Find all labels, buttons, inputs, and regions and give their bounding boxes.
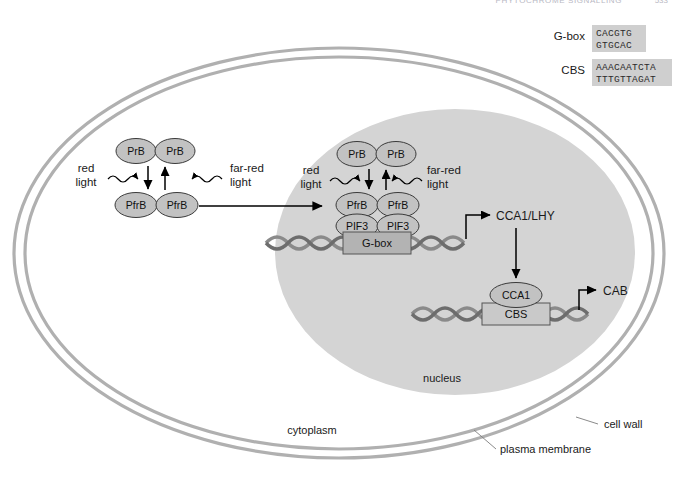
- nucleus-far-red-light-line-1: far-red: [427, 164, 461, 176]
- cytoplasm-pfr-label-2: PfrB: [167, 199, 187, 211]
- legend-g-box-label: G-box: [554, 30, 586, 42]
- cytoplasm-pr-label-1: PrB: [127, 145, 145, 157]
- cytoplasm-far-red-light-group: far-red light: [192, 162, 264, 188]
- pif3-label-1: PIF3: [346, 220, 368, 232]
- cytoplasm-pfr-label-1: PfrB: [126, 199, 146, 211]
- legend-g-box-bottom-strand: GTGCAC: [596, 40, 632, 51]
- cca1lhy-gene-label: CCA1/LHY: [496, 209, 555, 223]
- cytoplasm-pfr-dimer: PfrB PfrB: [115, 193, 198, 218]
- figure-canvas: PHYTOCHROME SIGNALLING 533 PrB Pr: [0, 0, 678, 482]
- cytoplasm-label: cytoplasm: [287, 424, 337, 436]
- nucleus-body: [275, 109, 635, 395]
- nucleus-pr-label-2: PrB: [387, 148, 405, 160]
- cytoplasm-red-light-wave: [108, 176, 138, 182]
- legend-cbs: CBS AAACAATCTA TTTGTTAGAT: [561, 59, 672, 86]
- cytoplasm-far-red-light-line-2: light: [230, 176, 252, 188]
- cytoplasm-pr-dimer: PrB PrB: [116, 139, 195, 164]
- legend-cbs-top-strand: AAACAATCTA: [596, 62, 656, 73]
- nucleus-pfr-label-1: PfrB: [347, 199, 367, 211]
- cca1-protein-label: CCA1: [502, 289, 530, 301]
- cbs-label: CBS: [505, 308, 528, 320]
- cell-wall-label: cell wall: [604, 418, 643, 430]
- nucleus-pr-label-1: PrB: [348, 148, 366, 160]
- plasma-membrane-label: plasma membrane: [500, 443, 591, 455]
- nucleus-pfr-label-2: PfrB: [388, 199, 408, 211]
- cytoplasm-far-red-light-line-1: far-red: [230, 162, 264, 174]
- nucleus-red-light-line-1: red: [303, 164, 320, 176]
- cytoplasm-far-red-light-wave: [192, 176, 222, 182]
- cytoplasm-red-light-group: red light: [75, 162, 138, 188]
- g-box-label: G-box: [362, 237, 392, 249]
- legend-cbs-bottom-strand: TTTGTTAGAT: [596, 74, 656, 85]
- pif3-label-2: PIF3: [387, 220, 409, 232]
- cytoplasm-pr-label-2: PrB: [166, 145, 184, 157]
- cell-wall-leader-line: [576, 417, 598, 424]
- cytoplasm-red-light-line-1: red: [78, 162, 95, 174]
- nucleus-label: nucleus: [423, 372, 461, 384]
- nucleus-far-red-light-line-2: light: [427, 178, 449, 190]
- cab-gene-label: CAB: [603, 284, 628, 298]
- legend-cbs-label: CBS: [561, 64, 585, 76]
- nucleus-red-light-line-2: light: [300, 178, 322, 190]
- legend-g-box-top-strand: CACGTG: [596, 28, 632, 39]
- cytoplasm-phytochrome-module: PrB PrB PfrB PfrB red light: [75, 139, 322, 218]
- signalling-pathway-diagram: PrB PrB PfrB PfrB red light: [0, 0, 678, 482]
- cytoplasm-red-light-line-2: light: [75, 176, 97, 188]
- legend-g-box: G-box CACGTG GTGCAC: [554, 25, 646, 52]
